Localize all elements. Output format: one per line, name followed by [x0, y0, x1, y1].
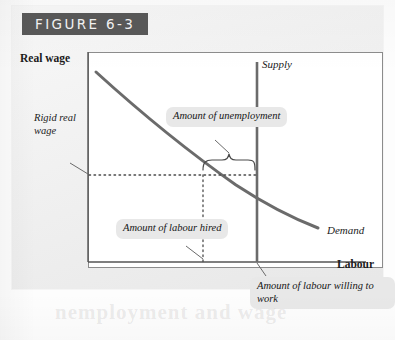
supply-curve-label: Supply — [262, 58, 292, 70]
amount-of-labour-hired-callout: Amount of labour hired — [116, 219, 228, 239]
y-axis-label: Real wage — [20, 52, 70, 64]
labour-willing-leader-line — [257, 263, 266, 276]
demand-curve — [96, 72, 318, 228]
rigid-wage-leader-line — [70, 163, 88, 174]
rigid-real-wage-label: Rigid real wage — [34, 112, 78, 137]
unemployment-leader-line — [215, 140, 229, 153]
demand-curve-label: Demand — [327, 224, 364, 236]
amount-of-labour-willing-callout: Amount of labour willing to work — [250, 277, 395, 309]
amount-of-unemployment-callout: Amount of unemployment — [166, 107, 287, 127]
scanned-page: FIGURE 6-3 Real wage Labour Supply Deman… — [0, 0, 395, 340]
x-axis-label: Labour — [337, 258, 374, 270]
labour-hired-leader-line — [186, 246, 203, 259]
